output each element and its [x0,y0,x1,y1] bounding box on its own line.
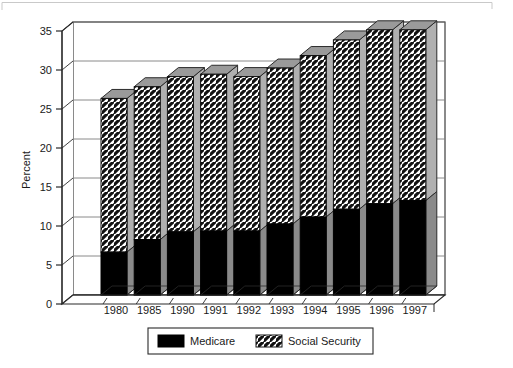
x-tick-label: 1995 [336,304,360,316]
x-tick-label: 1990 [170,304,194,316]
medicare-front-face [333,209,359,295]
bar-column [167,68,204,295]
y-tick-label: 5 [46,259,52,271]
x-tick-label: 1992 [237,304,261,316]
x-tick-label: 1991 [203,304,227,316]
medicare-front-face [201,231,227,295]
medicare-front-face [101,252,127,295]
x-tick-label: 1980 [104,304,128,316]
legend-label-medicare: Medicare [190,335,235,347]
social-security-front-face [333,40,359,209]
bar-column [333,31,370,295]
social-security-front-face [300,56,326,217]
y-tick-labels: 35 30 25 20 15 10 5 0 [40,25,52,310]
medicare-front-face [300,217,326,295]
medicare-side-face [426,192,437,295]
social-security-front-face [134,87,160,240]
chart-figure: 35 30 25 20 15 10 5 0 Percent 1980198519… [0,0,513,368]
social-security-front-face [234,77,260,231]
y-tick-label: 20 [40,142,52,154]
bar-column [234,68,271,295]
x-tick-label: 1994 [303,304,327,316]
x-tick-label: 1997 [403,304,427,316]
bar-column [101,89,138,295]
medicare-front-face [400,201,426,295]
y-tick-label: 15 [40,181,52,193]
bar-column [400,21,437,295]
social-security-front-face [267,68,293,224]
bar-column [367,21,404,295]
solid-black-swatch [158,335,184,347]
y-tick-label: 35 [40,25,52,37]
bar-column [201,65,238,295]
y-tick-label: 25 [40,103,52,115]
x-tick-label: 1993 [270,304,294,316]
medicare-front-face [134,240,160,295]
hatched-swatch [256,335,282,347]
social-security-front-face [167,77,193,232]
bar-column [267,59,304,295]
social-security-front-face [101,98,127,252]
medicare-front-face [367,204,393,295]
y-tick-label: 0 [46,298,52,310]
medicare-front-face [167,232,193,295]
social-security-side-face [426,21,437,201]
y-axis-title: Percent [20,151,32,189]
medicare-front-face [267,224,293,295]
social-security-front-face [400,30,426,201]
legend-label-social-security: Social Security [288,335,361,347]
y-tick-label: 10 [40,220,52,232]
stacked-bar-chart-svg: 35 30 25 20 15 10 5 0 Percent 1980198519… [0,0,513,368]
page-border [2,3,492,11]
social-security-front-face [367,30,393,204]
x-tick-label: 1985 [137,304,161,316]
chart-legend: Medicare Social Security [148,328,373,354]
bar-column [134,78,171,295]
social-security-front-face [201,74,227,231]
x-tick-label: 1996 [369,304,393,316]
bar-column [300,47,337,295]
y-tick-label: 30 [40,64,52,76]
medicare-front-face [234,231,260,295]
